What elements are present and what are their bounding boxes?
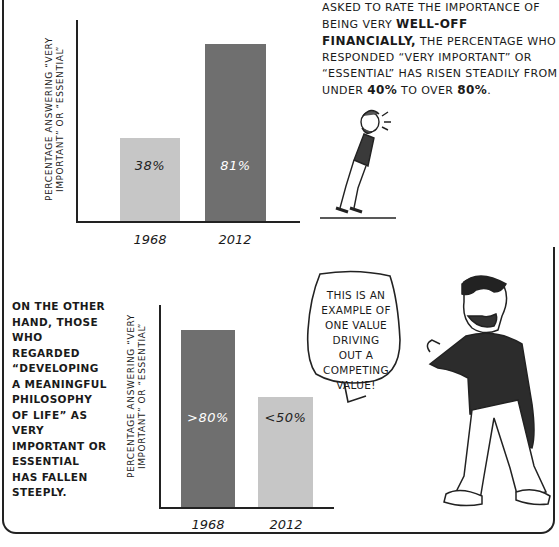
bottom-chart-y-axis-label: PERCENTAGE ANSWERING “VERY IMPORTANT” OR… — [126, 291, 148, 501]
panel-border-left — [2, 0, 4, 247]
bottom-bar-1968-label: >80% — [181, 410, 235, 425]
top-chart-y-axis-label: PERCENTAGE ANSWERING “VERY IMPORTANT” OR… — [44, 9, 66, 229]
bottom-bar-2012-label: <50% — [258, 410, 313, 425]
top-bar-2012-label: 81% — [205, 158, 266, 173]
top-chart-y-axis — [76, 20, 78, 222]
bottom-x-tick-2012: 2012 — [256, 517, 316, 532]
top-chart-x-axis — [76, 221, 300, 223]
leaning-man-illustration — [318, 108, 398, 220]
standing-man-illustration — [410, 272, 556, 524]
top-bar-2012: 81% — [205, 44, 266, 221]
bottom-bar-1968: >80% — [181, 330, 235, 507]
top-bar-1968: 38% — [120, 138, 180, 221]
top-bar-1968-label: 38% — [120, 158, 180, 173]
top-x-tick-2012: 2012 — [205, 232, 265, 247]
top-caption: ASKED TO RATE THE IMPORTANCE OF BEING VE… — [322, 0, 558, 99]
bottom-chart-y-axis — [159, 305, 161, 508]
bottom-caption: ON THE OTHER HAND, THOSE WHO REGARDED “D… — [12, 299, 108, 501]
speech-bubble-text: THIS IS AN EXAMPLE OF ONE VALUE DRIVING … — [320, 288, 392, 393]
bottom-x-tick-1968: 1968 — [178, 517, 238, 532]
top-x-tick-1968: 1968 — [120, 232, 180, 247]
bottom-chart-x-axis — [159, 507, 334, 509]
bottom-bar-2012: <50% — [258, 397, 313, 507]
